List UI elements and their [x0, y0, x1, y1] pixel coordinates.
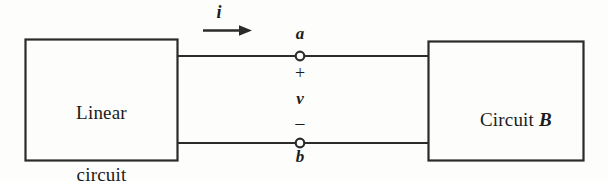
current-arrow	[203, 25, 252, 36]
voltage-symbol-label: v	[286, 90, 314, 108]
circuit-diagram-figure: Linear circuit A Circuit B i a + v − b	[0, 0, 608, 181]
terminal-a-label: a	[286, 25, 314, 43]
linear-circuit-a-line2: circuit	[25, 165, 178, 181]
polarity-plus-label: +	[286, 64, 314, 83]
circuit-b-text: Circuit	[480, 109, 539, 130]
current-arrow-head	[239, 25, 252, 36]
linear-circuit-a-label: Linear circuit A	[25, 62, 178, 181]
terminal-b-label: b	[286, 148, 314, 166]
current-symbol-label: i	[207, 3, 231, 22]
polarity-minus-label: −	[286, 114, 314, 136]
circuit-b-label: Circuit B	[428, 89, 584, 151]
terminal-b-node	[296, 139, 305, 148]
circuit-b-designator: B	[539, 109, 552, 130]
linear-circuit-a-line1: Linear	[25, 103, 178, 124]
terminal-a-node	[296, 52, 305, 61]
